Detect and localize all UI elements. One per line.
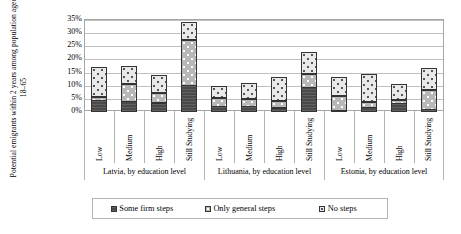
legend-item[interactable]: Some firm steps (93, 204, 191, 213)
x-axis-category-label: Still Studying (305, 118, 313, 161)
legend-label: Some firm steps (119, 204, 173, 213)
y-axis-title: Potential emigrants within 2 years among… (9, 0, 28, 178)
y-axis-tick: 35% (67, 15, 82, 23)
gridline (85, 20, 443, 21)
x-axis-category-labels: LowMediumHighStill StudyingLowMediumHigh… (84, 111, 444, 163)
bar-segment-no-steps (271, 77, 287, 101)
x-axis-category-label: Low (335, 147, 343, 161)
y-axis-tick: 25% (67, 41, 82, 49)
x-axis-category-label: High (275, 145, 283, 161)
x-axis-category-high: High (384, 111, 414, 163)
legend-label: No steps (328, 204, 357, 213)
bar-segment-only-general-steps (181, 40, 197, 85)
bar-segment-no-steps (91, 67, 107, 97)
y-axis-tick: 5% (71, 94, 82, 102)
legend-swatch-icon (111, 206, 117, 212)
bar-segment-only-general-steps (421, 90, 437, 110)
bar-segment-no-steps (331, 77, 347, 96)
gridline (85, 59, 443, 60)
bar-segment-no-steps (391, 84, 407, 100)
y-axis-tick: 0% (71, 107, 82, 115)
bar-segment-only-general-steps (331, 96, 347, 111)
bar[interactable] (211, 86, 227, 111)
bar-segment-no-steps (361, 74, 377, 102)
x-axis-category-label: Still Studying (425, 118, 433, 161)
x-axis-category-still-studying: Still Studying (294, 111, 324, 163)
x-axis-category-still-studying: Still Studying (414, 111, 444, 163)
x-axis-category-low: Low (84, 111, 114, 163)
x-axis-category-high: High (144, 111, 174, 163)
legend-swatch-icon (205, 206, 211, 212)
legend-swatch-icon (319, 206, 325, 212)
stacked-bar-chart: Potential emigrants within 2 years among… (0, 0, 461, 234)
x-axis-group-label: Lithuania, by education level (204, 163, 324, 180)
bar-segment-no-steps (121, 66, 137, 84)
y-axis-tick-labels: 0%5%10%15%20%25%30%35% (52, 19, 82, 111)
x-axis-category-medium: Medium (114, 111, 144, 163)
chart-legend: Some firm stepsOnly general stepsNo step… (92, 198, 388, 219)
gridline (85, 99, 443, 100)
x-axis-category-label: High (395, 145, 403, 161)
bar-segment-no-steps (211, 86, 227, 98)
bar-segment-no-steps (421, 68, 437, 90)
bar[interactable] (421, 68, 437, 111)
bar-segment-only-general-steps (301, 74, 317, 88)
bar[interactable] (301, 52, 317, 111)
y-axis-tick: 15% (67, 68, 82, 76)
x-axis-category-low: Low (324, 111, 354, 163)
x-axis-category-low: Low (204, 111, 234, 163)
x-axis-group-labels: Latvia, by education levelLithuania, by … (84, 163, 444, 180)
bar[interactable] (91, 67, 107, 111)
x-axis-group-label: Estonia, by education level (324, 163, 444, 180)
y-axis-tick: 10% (67, 81, 82, 89)
legend-label: Only general steps (213, 204, 275, 213)
x-axis-category-label: Medium (245, 135, 253, 161)
gridline (85, 46, 443, 47)
bar-segment-only-general-steps (121, 84, 137, 101)
bar[interactable] (181, 22, 197, 111)
bar[interactable] (391, 84, 407, 111)
plot-area (84, 19, 444, 111)
x-axis-category-medium: Medium (234, 111, 264, 163)
gridline (85, 33, 443, 34)
y-axis-tick: 20% (67, 54, 82, 62)
legend-item[interactable]: No steps (289, 204, 387, 213)
x-axis-group-label: Latvia, by education level (84, 163, 204, 180)
x-axis-category-label: Medium (125, 135, 133, 161)
y-axis-tick: 30% (67, 28, 82, 36)
bar-segment-no-steps (151, 75, 167, 93)
bar-segment-no-steps (181, 22, 197, 40)
x-axis-category-label: Low (215, 147, 223, 161)
bar[interactable] (361, 74, 377, 111)
bar-segment-no-steps (241, 83, 257, 99)
x-axis-category-label: Still Studying (185, 118, 193, 161)
bar-segment-no-steps (301, 52, 317, 75)
x-axis-category-still-studying: Still Studying (174, 111, 204, 163)
bar-segment-some-firm-steps (181, 85, 197, 112)
bar[interactable] (271, 77, 287, 111)
bar[interactable] (331, 77, 347, 111)
bar-segment-some-firm-steps (301, 87, 317, 112)
bar[interactable] (121, 66, 137, 111)
gridline (85, 73, 443, 74)
legend-item[interactable]: Only general steps (191, 204, 289, 213)
x-axis-category-high: High (264, 111, 294, 163)
gridline (85, 86, 443, 87)
x-axis-category-label: Medium (365, 135, 373, 161)
bar[interactable] (241, 83, 257, 111)
x-axis-category-label: High (155, 145, 163, 161)
x-axis-category-medium: Medium (354, 111, 384, 163)
bar[interactable] (151, 75, 167, 111)
x-axis-category-label: Low (95, 147, 103, 161)
